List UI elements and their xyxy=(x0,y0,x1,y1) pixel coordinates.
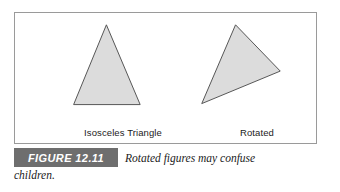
shapes-canvas xyxy=(15,13,316,143)
figure-caption: Rotated figures may confuse children. xyxy=(14,150,326,184)
caption-text-line-2: children. xyxy=(14,167,326,184)
caption-line-1: Rotated figures may confuse xyxy=(14,150,326,167)
illustration-panel: Isosceles Triangle Rotated xyxy=(14,12,317,144)
caption-text-line-1: Rotated figures may confuse xyxy=(125,152,255,164)
rotated-triangle-shape xyxy=(202,25,280,104)
isosceles-triangle-label: Isosceles Triangle xyxy=(63,127,183,138)
rotated-triangle-label: Rotated xyxy=(220,127,294,138)
isosceles-triangle-shape xyxy=(74,25,141,105)
figure-container: Isosceles Triangle Rotated FIGURE 12.11 … xyxy=(0,0,340,192)
